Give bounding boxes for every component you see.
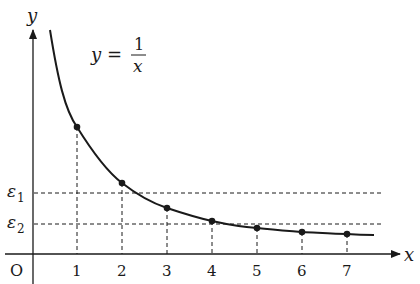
svg-text:y =: y = (90, 44, 122, 65)
svg-text:1: 1 (134, 35, 144, 54)
equation-label: y = 1 x (90, 35, 146, 76)
svg-text:1: 1 (72, 262, 82, 280)
svg-text:6: 6 (297, 262, 307, 280)
origin-label: O (10, 261, 23, 280)
svg-text:1: 1 (17, 191, 25, 205)
svg-text:ε: ε (7, 181, 16, 201)
svg-text:2: 2 (17, 222, 25, 236)
diagram-canvas: y x O 1 2 3 4 5 6 7 ε 1 ε 2 y = 1 x (0, 0, 420, 284)
x-tick-labels: 1 2 3 4 5 6 7 (72, 262, 352, 280)
svg-text:x: x (133, 56, 143, 76)
svg-text:ε: ε (7, 212, 16, 232)
data-points (74, 124, 351, 238)
epsilon1-label: ε 1 (7, 181, 25, 205)
svg-text:3: 3 (162, 262, 172, 280)
svg-text:7: 7 (342, 262, 352, 280)
svg-text:5: 5 (252, 262, 262, 280)
y-axis-label: y (26, 5, 38, 26)
svg-text:4: 4 (207, 262, 217, 280)
epsilon2-label: ε 2 (7, 212, 25, 236)
drop-lines (77, 127, 347, 254)
x-axis-label: x (404, 244, 414, 265)
svg-text:2: 2 (117, 262, 127, 280)
